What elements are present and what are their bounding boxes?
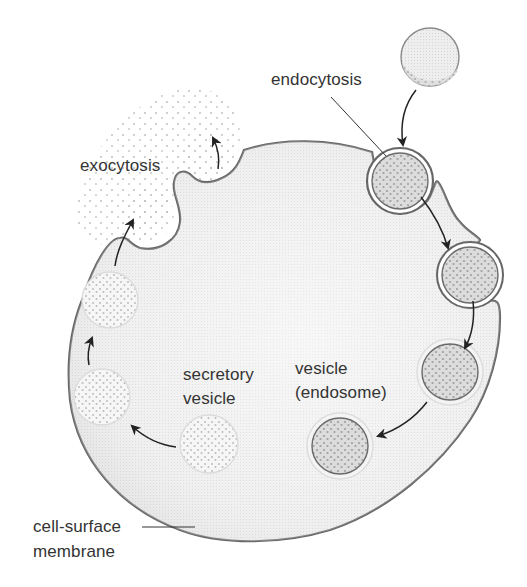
secretory-vesicle <box>180 415 238 473</box>
arrow-into-cell <box>402 90 416 145</box>
extracellular-particle <box>401 28 459 86</box>
secretory-vesicle-2 <box>74 369 130 425</box>
label-endosome-1: vesicle <box>295 357 348 381</box>
endosome-1 <box>417 339 483 405</box>
endo-exocytosis-diagram: endocytosis exocytosis secretory vesicle… <box>0 0 527 587</box>
label-secretory-vesicle-1: secretory <box>183 363 254 387</box>
label-membrane-1: cell-surface <box>33 515 121 539</box>
internalized-vesicle <box>437 242 503 308</box>
diagram-canvas <box>0 0 527 587</box>
secretory-vesicle-3 <box>82 272 138 328</box>
label-exocytosis: exocytosis <box>80 154 160 178</box>
label-endosome-2: (endosome) <box>295 381 387 405</box>
label-endocytosis: endocytosis <box>271 68 362 92</box>
label-membrane-2: membrane <box>33 540 115 564</box>
endocytic-vesicle <box>367 148 433 214</box>
endosome-2 <box>307 413 373 479</box>
label-secretory-vesicle-2: vesicle <box>183 387 236 411</box>
